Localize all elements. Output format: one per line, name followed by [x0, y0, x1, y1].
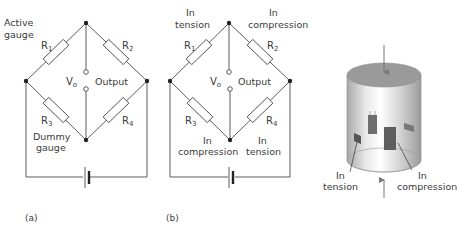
output-label-b: Output: [238, 76, 271, 87]
r2-state-line1-b: In: [269, 7, 278, 18]
caption-b: (b): [166, 213, 179, 223]
output-terminal-top-a: [84, 70, 89, 75]
node-bottom-a: [84, 138, 88, 142]
cyl-compression-line2: compression: [397, 181, 457, 192]
output-label-a: Output: [95, 76, 128, 87]
vo-label-a: Vo: [66, 76, 77, 89]
node-right-a: [145, 79, 149, 83]
dummy-gauge-label-line1: Dummy: [33, 131, 71, 142]
r1-state-line2-b: tension: [175, 19, 210, 30]
cyl-tension-line1: In: [336, 170, 345, 181]
r1-state-line1-b: In: [186, 7, 195, 18]
load-cell-cylinder: [347, 63, 421, 172]
dummy-gauge-label-line2: gauge: [36, 142, 66, 153]
r3-state-line1-b: In: [203, 135, 212, 146]
active-gauge-label-line2: gauge: [4, 29, 34, 40]
node-left-a: [24, 79, 28, 83]
caption-a: (a): [25, 213, 38, 223]
r4-label-b: R4: [266, 115, 278, 128]
r2-label-a: R2: [122, 40, 133, 53]
r4-label-a: R4: [122, 115, 134, 128]
active-gauge-label-line1: Active: [4, 17, 34, 28]
cyl-compression-line1: In: [418, 170, 427, 181]
r2-label-b: R2: [267, 40, 278, 53]
r4-state-line1-b: In: [258, 135, 267, 146]
node-bottom-b: [228, 138, 232, 142]
node-left-b: [168, 79, 172, 83]
cyl-tension-line2: tension: [323, 181, 358, 192]
output-terminal-bottom-b: [228, 87, 233, 92]
battery-icon-a: [85, 167, 89, 188]
node-top-a: [84, 21, 88, 25]
r3-label-b: R3: [185, 115, 196, 128]
r1-label-a: R1: [41, 40, 52, 53]
vo-label-b: Vo: [210, 76, 221, 89]
r3-state-line2-b: compression: [178, 146, 238, 157]
r3-label-a: R3: [41, 115, 52, 128]
node-top-b: [227, 21, 231, 25]
r4-state-line2-b: tension: [246, 146, 281, 157]
battery-icon-b: [229, 167, 233, 188]
output-terminal-top-b: [227, 70, 232, 75]
node-right-b: [288, 79, 292, 83]
strain-gauge-figure: Active gauge R1 R2 R3 R4 Vo Output Dummy…: [0, 0, 461, 234]
output-terminal-bottom-a: [84, 87, 89, 92]
r1-label-b: R1: [184, 40, 195, 53]
r2-state-line2-b: compression: [248, 19, 308, 30]
